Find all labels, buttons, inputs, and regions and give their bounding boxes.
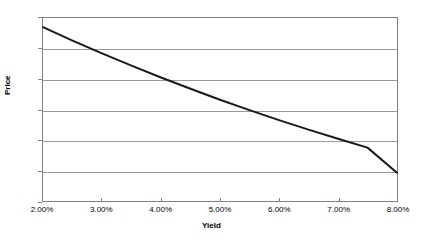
x-tick-label-5.00%: 5.00% <box>209 206 232 214</box>
x-tick-mark-3.00% <box>101 198 102 202</box>
x-tick-mark-7.00% <box>339 198 340 202</box>
series-line-price <box>43 27 397 172</box>
x-axis-title: Yield <box>0 222 423 230</box>
price-yield-series <box>43 18 397 201</box>
x-tick-label-2.00%: 2.00% <box>31 206 54 214</box>
x-tick-label-8.00%: 8.00% <box>387 206 410 214</box>
x-tick-label-3.00%: 3.00% <box>90 206 113 214</box>
x-tick-label-4.00%: 4.00% <box>149 206 172 214</box>
x-tick-mark-4.00% <box>161 198 162 202</box>
x-tick-label-7.00%: 7.00% <box>327 206 350 214</box>
x-tick-mark-5.00% <box>220 198 221 202</box>
price-yield-chart: Price 708090100110120130 2.00%3.00%4.00%… <box>0 0 423 240</box>
plot-area <box>42 17 398 202</box>
y-tick-mark-70 <box>38 202 42 203</box>
x-tick-mark-6.00% <box>279 198 280 202</box>
y-axis-title: Price <box>4 75 12 95</box>
x-tick-label-6.00%: 6.00% <box>268 206 291 214</box>
